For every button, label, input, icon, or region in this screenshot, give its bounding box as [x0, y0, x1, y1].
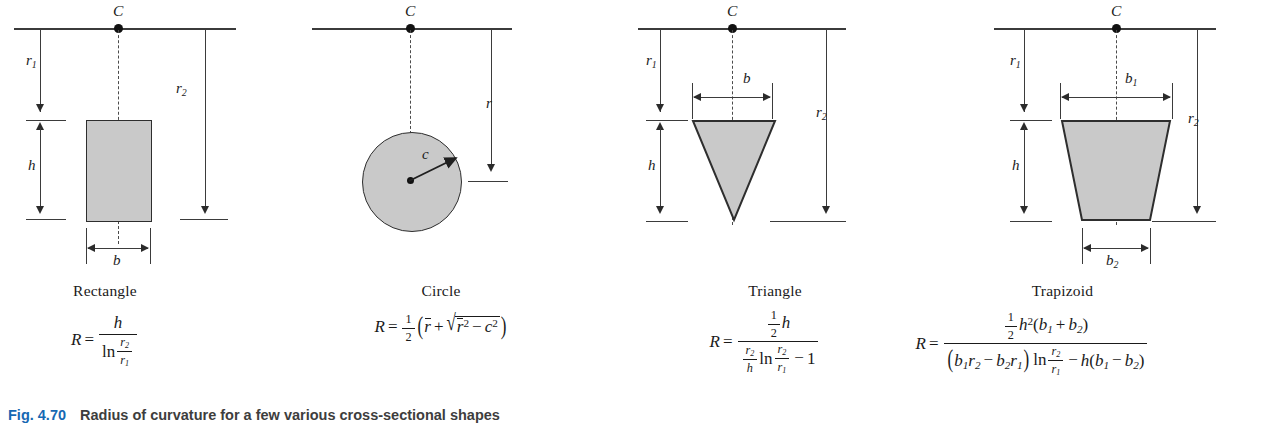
reference-axis — [994, 28, 1216, 30]
b-extension-right — [772, 83, 773, 119]
b-label: b — [743, 70, 751, 87]
r-extension-line — [468, 181, 508, 182]
figure-caption-text: Radius of curvature for a few various cr… — [70, 407, 500, 423]
circle-formula: R=12(r+√r2−c2) — [276, 312, 606, 345]
centerline-dashed — [732, 30, 733, 125]
rectangle-log-ratio: r2r1 — [117, 335, 132, 370]
trapezoid-denominator: (b1r2−b2r1)lnr2r1−h(b1−b2) — [944, 344, 1148, 379]
b1-label: b1 — [1125, 70, 1137, 88]
reference-axis — [638, 28, 846, 30]
r2-extension-line — [180, 219, 228, 220]
rectangle-shape — [86, 120, 152, 222]
b-arrow-right — [141, 244, 149, 252]
h-dim-line — [40, 128, 41, 206]
r2-arrow — [1193, 206, 1201, 214]
r1-text: r1 — [26, 52, 37, 70]
b1-extension-right — [1172, 83, 1173, 119]
h-dim-line — [1024, 128, 1025, 206]
trapezoid-log-ratio: r2r1 — [1048, 344, 1063, 379]
r2-arrow — [201, 206, 209, 214]
h-arrow-down — [656, 206, 664, 214]
b1-arrow-left — [1061, 93, 1069, 101]
panel-circle: C r c — [300, 0, 630, 400]
b2-arrow-right — [1141, 244, 1149, 252]
b-extension-left — [692, 83, 693, 119]
h-label: h — [1012, 157, 1020, 174]
h-arrow-down — [1020, 206, 1028, 214]
r1-dim-line — [40, 30, 41, 112]
b2-label: b2 — [1106, 252, 1118, 270]
r2-extension-line — [770, 221, 846, 222]
trapezoid-formula-math: R=12h2(b1+b2)(b1r2−b2r1)lnr2r1−h(b1−b2) — [916, 310, 1150, 379]
b1-extension-left — [1060, 83, 1061, 119]
b-arrow-left — [87, 244, 95, 252]
rectangle-fraction: hlnr2r1 — [99, 312, 137, 370]
trapezoid-formula: R=12h2(b1+b2)(b1r2−b2r1)lnr2r1−h(b1−b2) — [800, 310, 1265, 379]
h-dim-line — [660, 128, 661, 206]
triangle-shape-label: Triangle — [630, 282, 920, 300]
centerline-dashed — [1116, 30, 1117, 125]
r2-arrow — [822, 206, 830, 214]
b1-dim-line — [1062, 97, 1170, 98]
trapezoid-diagram: C r1 h r2 b1 — [920, 0, 1265, 278]
rectangle-diagram: C r1 h r2 — [0, 0, 300, 278]
r-bar-squared: r — [457, 317, 464, 337]
r2-label: r2 — [176, 80, 187, 98]
r1-label: r1 — [1010, 52, 1021, 70]
r1-text: r1 — [1010, 52, 1021, 70]
r1-extension-line — [26, 120, 66, 121]
b-dim-line — [88, 248, 148, 249]
panel-rectangle: C r1 h r2 — [0, 0, 300, 400]
reference-axis — [14, 28, 236, 30]
centroid-label: C — [405, 2, 415, 20]
r1-arrow — [36, 104, 44, 112]
r1-dim-line — [660, 30, 661, 112]
b2-text: b2 — [1106, 252, 1118, 270]
circle-shape-label: Circle — [276, 282, 606, 300]
b1-arrow-right — [1163, 93, 1171, 101]
triangle-diagram: C r1 h r2 b — [630, 0, 920, 278]
b-dim-line — [694, 97, 770, 98]
b2-dim-line — [1084, 248, 1148, 249]
trapezoid-numerator: 12h2(b1+b2) — [944, 310, 1148, 344]
b1-text: b1 — [1125, 70, 1137, 88]
circle-one-half: 12 — [402, 312, 414, 345]
h-extension-line — [26, 219, 66, 220]
r2-text: r2 — [176, 80, 187, 98]
triangle-shape — [688, 119, 780, 223]
r-arrow — [487, 164, 495, 172]
centroid-label: C — [113, 2, 123, 20]
figure-caption: Fig. 4.70 Radius of curvature for a few … — [8, 407, 500, 423]
circle-sqrt: √r2−c2 — [447, 316, 500, 337]
r1-text: r1 — [646, 52, 657, 70]
r1-extension-line — [646, 120, 688, 121]
circle-diagram: C r c — [300, 0, 630, 278]
triangle-one-half: 12 — [768, 308, 780, 341]
r2-label: r2 — [1188, 110, 1199, 128]
c-label: c — [422, 146, 429, 163]
trapezoid-shape — [1056, 119, 1176, 223]
centerline-dashed — [118, 30, 119, 125]
h-label: h — [28, 157, 36, 174]
r1-label: r1 — [646, 52, 657, 70]
rectangle-formula-math: R=hlnr2r1 — [71, 312, 139, 370]
r2-dim-line — [205, 30, 206, 206]
trapezoid-fraction: 12h2(b1+b2)(b1r2−b2r1)lnr2r1−h(b1−b2) — [944, 310, 1148, 379]
h-extension-line — [646, 221, 688, 222]
r2-label: r2 — [816, 104, 827, 122]
open-paren: ( — [418, 313, 424, 342]
b-arrow-left — [693, 93, 701, 101]
centroid-label: C — [727, 2, 737, 20]
panel-trapezoid: C r1 h r2 b1 — [920, 0, 1265, 400]
radicand: r2−c2 — [455, 316, 500, 337]
r-bar: r — [424, 317, 431, 337]
trapezoid-shape-svg — [1056, 119, 1176, 223]
close-paren: ) — [501, 313, 507, 342]
r-label: r — [486, 95, 492, 112]
h-arrow-down — [36, 206, 44, 214]
c-radius-arrow — [404, 150, 466, 194]
b-arrow-right — [763, 93, 771, 101]
rectangle-denominator: lnr2r1 — [99, 335, 137, 370]
r2-text: r2 — [816, 104, 827, 122]
r2-text: r2 — [1188, 110, 1199, 128]
